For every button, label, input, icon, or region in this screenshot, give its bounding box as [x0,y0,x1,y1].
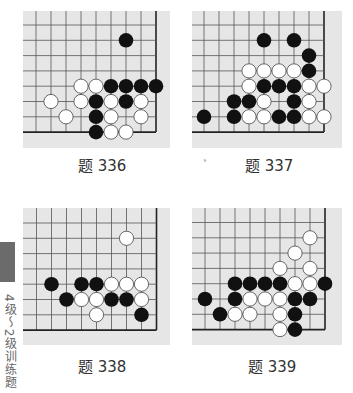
white-stone [104,110,118,124]
white-stone [302,94,316,108]
black-stone [198,292,213,307]
white-stone [303,231,317,245]
black-stone [303,292,318,307]
black-stone [288,322,303,337]
white-stone [303,261,317,275]
black-stone [302,64,317,79]
print-speck [203,159,206,163]
white-stone [74,94,88,108]
black-stone [197,110,212,125]
black-stone [119,94,134,109]
black-stone [104,79,119,94]
black-stone [89,277,104,292]
white-stone [303,277,317,291]
black-stone [119,79,134,94]
black-stone [89,110,104,125]
white-stone [104,94,118,108]
white-stone [273,323,287,337]
black-stone [272,79,287,94]
black-stone [227,110,242,125]
black-stone [89,125,104,140]
black-stone [257,79,272,94]
black-stone [257,33,272,48]
problem-label-338: 题 338 [78,355,126,376]
go-board-problem-338 [23,208,170,345]
black-stone [272,110,287,125]
white-stone [89,79,103,93]
white-stone [317,110,331,124]
problem-label-337: 题 337 [245,154,293,175]
white-stone [44,94,58,108]
white-stone [104,277,118,291]
white-stone [257,64,271,78]
white-stone [59,110,73,124]
white-stone [89,308,103,322]
black-stone [302,48,317,63]
black-stone [149,79,164,94]
white-stone [243,307,257,321]
white-stone [288,246,302,260]
white-stone [74,292,88,306]
black-stone [228,292,243,307]
section-tab-marker [0,242,15,282]
black-stone [228,276,243,291]
black-stone [273,276,288,291]
white-stone [272,64,286,78]
board-background [192,208,342,345]
black-stone [213,307,228,322]
white-stone [242,110,256,124]
white-stone [119,231,133,245]
black-stone [59,292,74,307]
white-stone [134,110,148,124]
problem-label-336: 题 336 [78,154,126,175]
black-stone [242,94,257,109]
white-stone [243,292,257,306]
black-stone [287,79,302,94]
black-stone [104,292,119,307]
board-background [192,11,342,148]
black-stone [134,79,149,94]
black-stone [89,94,104,109]
white-stone [74,79,88,93]
white-stone [242,79,256,93]
black-stone [318,276,333,291]
black-stone [243,276,258,291]
white-stone [287,64,301,78]
problem-label-339: 题 339 [248,355,296,376]
black-stone [258,276,273,291]
black-stone [288,292,303,307]
white-stone [119,277,133,291]
white-stone [119,125,133,139]
go-board-problem-336 [23,11,170,148]
white-stone [302,110,316,124]
white-stone [89,292,103,306]
section-title-vertical: 4级～2级训练题 [1,294,17,392]
white-stone [302,79,316,93]
white-stone [273,292,287,306]
black-stone [288,307,303,322]
white-stone [134,277,148,291]
black-stone [44,277,59,292]
white-stone [104,125,118,139]
black-stone [134,308,149,323]
black-stone [119,33,134,48]
white-stone [317,79,331,93]
white-stone [228,307,242,321]
white-stone [288,277,302,291]
white-stone [273,307,287,321]
white-stone [258,292,272,306]
black-stone [287,33,302,48]
white-stone [257,94,271,108]
white-stone [257,110,271,124]
go-board-problem-339 [192,208,342,345]
white-stone [242,64,256,78]
go-board-problem-337 [192,11,342,148]
black-stone [227,94,242,109]
black-stone [74,277,89,292]
white-stone [134,292,148,306]
white-stone [134,94,148,108]
black-stone [287,110,302,125]
black-stone [287,94,302,109]
white-stone [273,261,287,275]
black-stone [119,292,134,307]
